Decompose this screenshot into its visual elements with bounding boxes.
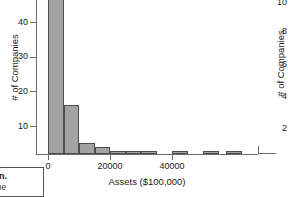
histogram-bar — [95, 147, 111, 154]
side-y-tick-label: 8 — [282, 27, 287, 36]
y-axis-title: # of Companies — [9, 8, 20, 128]
callout-line-1: ction. — [0, 171, 7, 181]
histogram-bar — [126, 151, 142, 154]
side-axis-line — [258, 153, 276, 154]
x-tick-label: 40000 — [159, 161, 184, 171]
histogram-bar — [203, 151, 219, 154]
side-y-tick-label: 4 — [282, 92, 287, 101]
x-axis-title: Assets ($100,000) — [36, 176, 258, 187]
side-y-tick-label: 2 — [282, 124, 287, 133]
histogram-bar — [110, 151, 126, 154]
callout-line-2: ch the — [0, 182, 6, 192]
side-y-tick-label: 6 — [282, 60, 287, 69]
histogram-bar — [172, 151, 188, 154]
histogram-bar — [64, 105, 80, 154]
histogram-bar — [48, 0, 64, 154]
side-histogram-partial: # of Companies 108642 — [258, 0, 288, 197]
x-tick-label: 20000 — [97, 161, 122, 171]
histogram-bars — [0, 0, 258, 155]
callout-box: ction. ch the — [0, 167, 44, 197]
x-tick-label: 0 — [45, 161, 50, 171]
histogram-bar — [79, 143, 95, 154]
side-y-tick-label: 10 — [277, 0, 287, 7]
side-axis-tick — [258, 146, 259, 154]
histogram-bar — [226, 151, 242, 154]
histogram-bar — [141, 151, 157, 154]
